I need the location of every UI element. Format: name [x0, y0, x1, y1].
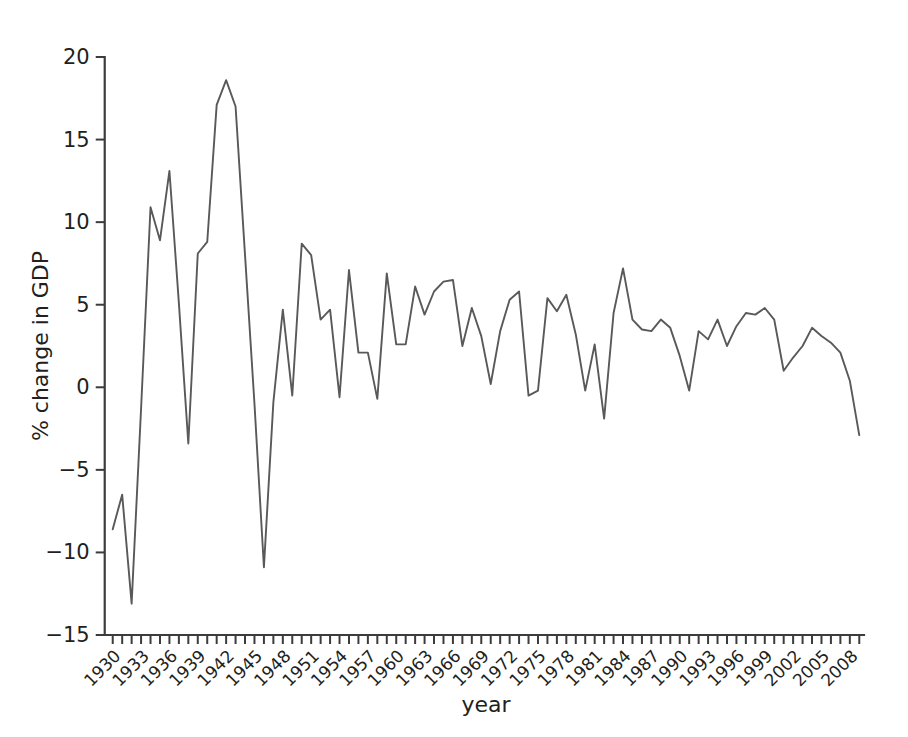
- gdp-series-line: [113, 80, 860, 604]
- gdp-line-chart-figure: 20151050−5−10−15 19301933193619391942194…: [0, 0, 908, 737]
- x-axis-title: year: [461, 692, 511, 717]
- y-tick-label: 5: [76, 293, 89, 317]
- y-tick-label: −5: [59, 458, 90, 482]
- y-axis-ticks: 20151050−5−10−15: [45, 45, 104, 647]
- y-tick-label: −10: [45, 540, 89, 564]
- y-tick-label: 15: [63, 128, 90, 152]
- chart-canvas: 20151050−5−10−15 19301933193619391942194…: [0, 0, 908, 737]
- y-tick-label: 10: [63, 210, 90, 234]
- x-axis-ticks: 1930193319361939194219451948195119541957…: [80, 635, 862, 690]
- y-axis-title: % change in GDP: [28, 251, 53, 441]
- y-tick-label: 0: [76, 375, 89, 399]
- y-tick-label: 20: [63, 45, 90, 69]
- y-tick-label: −15: [45, 623, 89, 647]
